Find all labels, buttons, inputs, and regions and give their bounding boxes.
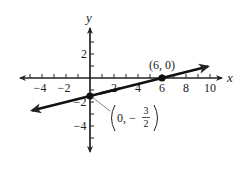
y-axis-label: y	[84, 10, 92, 25]
fraction-numerator: 3	[144, 105, 149, 116]
annotation-x-intercept: (6, 0)	[149, 58, 175, 72]
annotation-leader-line	[92, 97, 110, 111]
y-axis: y 2 −2 −4	[74, 10, 94, 152]
y-tick-label: 2	[81, 47, 87, 61]
x-tick-label: −2	[58, 81, 71, 95]
annotation-y-intercept-prefix: 0, −	[117, 111, 136, 125]
point-x-intercept	[158, 74, 165, 81]
x-tick-label: −4	[34, 81, 47, 95]
y-tick-label: −4	[74, 119, 87, 133]
x-tick-label: 10	[204, 81, 216, 95]
coordinate-plane: x −4 −2 2 4 6 8 10 y 2 −2 −4	[0, 0, 240, 178]
x-axis-label: x	[226, 70, 233, 85]
x-tick-label: 6	[159, 81, 165, 95]
fraction-denominator: 2	[144, 118, 149, 129]
point-y-intercept	[86, 92, 93, 99]
annotation-y-intercept: 0, − 3 2	[112, 105, 158, 131]
x-tick-label: 2	[111, 81, 117, 95]
x-axis: x −4 −2 2 4 6 8 10	[20, 70, 233, 95]
x-tick-label: 8	[183, 81, 189, 95]
